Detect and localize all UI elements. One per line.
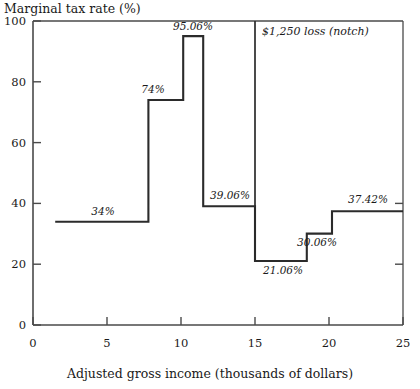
x-tick-label-25: 25	[388, 336, 418, 350]
data-label-3742: 37.42%	[337, 193, 399, 205]
x-tick-label-15: 15	[240, 336, 270, 350]
data-label-3906: 39.06%	[199, 189, 261, 201]
data-label-3006: 30.06%	[286, 236, 348, 248]
y-axis-ticks-right	[395, 203, 403, 264]
x-tick-label-10: 10	[166, 336, 196, 350]
data-label-9506: 95.06%	[158, 20, 228, 32]
data-label-34: 34%	[73, 205, 133, 217]
notch-annotation: $1,250 loss (notch)	[262, 25, 369, 38]
tax-rate-chart-figure: Marginal tax rate (%)	[0, 0, 420, 389]
y-axis-ticks	[33, 21, 41, 325]
x-tick-label-0: 0	[18, 336, 48, 350]
y-tick-label-20: 20	[0, 257, 26, 271]
data-label-74: 74%	[133, 83, 173, 95]
y-tick-label-60: 60	[0, 136, 26, 150]
x-tick-label-5: 5	[92, 336, 122, 350]
x-tick-label-20: 20	[314, 336, 344, 350]
marginal-tax-rate-step-line	[55, 36, 403, 261]
x-axis-ticks	[33, 317, 403, 325]
y-tick-label-100: 100	[0, 14, 26, 28]
y-tick-label-80: 80	[0, 75, 26, 89]
plot-frame	[33, 21, 403, 325]
x-axis-title: Adjusted gross income (thousands of doll…	[0, 366, 420, 381]
y-tick-label-0: 0	[0, 318, 26, 332]
y-tick-label-40: 40	[0, 196, 26, 210]
data-label-2106: 21.06%	[252, 264, 314, 276]
